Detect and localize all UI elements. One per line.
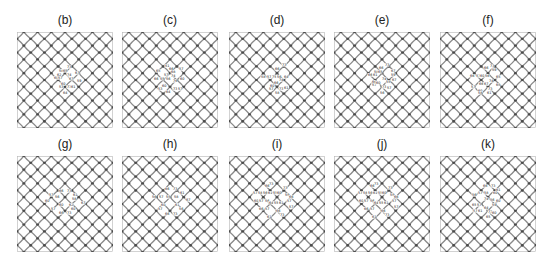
atom-label: 73 xyxy=(283,186,287,190)
atom-label: 59 xyxy=(77,79,81,83)
atom-label: 65 xyxy=(496,75,500,79)
atom-label: 65 xyxy=(472,203,476,207)
atom-label: 55 xyxy=(274,201,278,205)
atom-label: 57 xyxy=(370,207,374,211)
atom-label: 66 xyxy=(259,207,263,211)
atom-label: 57 xyxy=(158,207,162,211)
atom-label: 57 xyxy=(478,191,482,195)
atom-label: 67 xyxy=(186,198,190,202)
atom-label: 56 xyxy=(55,195,59,199)
panel-title: (k) xyxy=(440,137,536,151)
atom-label: 66 xyxy=(483,184,487,188)
atom-label: 53 xyxy=(59,85,63,89)
atom-label: 57 xyxy=(477,203,481,207)
atom-label: 57 xyxy=(58,76,62,80)
atom-label: 57 xyxy=(259,199,263,203)
atom-label: 60 xyxy=(492,211,496,215)
atom-label: 58 xyxy=(478,91,482,95)
atom-label: 57 xyxy=(471,85,475,89)
atom-label: 67 xyxy=(392,78,396,82)
atom-label: 73 xyxy=(374,182,378,186)
panel-title: (c) xyxy=(122,13,218,27)
atom-label: 58 xyxy=(258,191,262,195)
atom-label: 67 xyxy=(69,77,73,81)
atom-label: 57 xyxy=(473,209,477,213)
atom-label: 60 xyxy=(382,191,386,195)
lattice-structure: 7366596657605665746667655760736158 xyxy=(440,32,536,128)
atom-label: 58 xyxy=(484,191,488,195)
atom-label: 73 xyxy=(173,87,177,91)
panel-title: (g) xyxy=(17,137,113,151)
atom-label: 58 xyxy=(72,197,76,201)
atom-label: 65 xyxy=(496,83,500,87)
atom-label: 61 xyxy=(373,191,377,195)
atom-label: 58 xyxy=(363,191,367,195)
atom-label: 61 xyxy=(71,85,75,89)
atom-label: 55 xyxy=(386,80,390,84)
atom-label: 61 xyxy=(268,191,272,195)
atom-label: 56 xyxy=(472,193,476,197)
atom-label: 57 xyxy=(265,207,269,211)
atom-label: 56 xyxy=(152,195,156,199)
atom-label: 57 xyxy=(267,75,271,79)
atom-label: 60 xyxy=(59,203,63,207)
atom-label: 73 xyxy=(280,213,284,217)
atom-label: 61 xyxy=(279,201,283,205)
atom-label: 60 xyxy=(376,81,380,85)
atom-label: 61 xyxy=(478,209,482,213)
atom-label: 60 xyxy=(493,191,497,195)
atom-label: 65 xyxy=(486,215,490,219)
atom-label: 57 xyxy=(269,87,273,91)
panel-title: (f) xyxy=(440,13,536,27)
atom-label: 55 xyxy=(160,77,164,81)
lattice-structure: 7366735758566155605966576057566455615766… xyxy=(334,156,430,252)
atom-label: 73 xyxy=(67,189,71,193)
atom-label: 67 xyxy=(484,82,488,86)
lattice-structure: 6673615657555867606157566673 xyxy=(122,156,218,252)
atom-label: 56 xyxy=(179,207,183,211)
atom-label: 61 xyxy=(267,215,271,219)
atom-label: 58 xyxy=(174,195,178,199)
atom-label: 64 xyxy=(284,75,288,79)
lattice-structure: 6673615756586060626757606673 xyxy=(17,156,113,252)
atom-label: 60 xyxy=(71,207,75,211)
atom-label: 55 xyxy=(166,195,170,199)
panel-title: (e) xyxy=(334,13,430,27)
lattice-structure: 7366735758566155605966576057566455615766… xyxy=(229,156,325,252)
atom-label: 66 xyxy=(364,207,368,211)
atom-label: 56 xyxy=(490,198,494,202)
atom-label: 57 xyxy=(392,199,396,203)
lattice-structure: 7366585775566474666057736158 xyxy=(229,32,325,128)
atom-label: 57 xyxy=(358,191,362,195)
lattice-structure: 66736157586056745660655764595761736065 xyxy=(440,156,536,252)
atom-label: 64 xyxy=(374,201,378,205)
atom-label: 57 xyxy=(49,193,53,197)
atom-label: 73 xyxy=(491,184,495,188)
atom-label: 60 xyxy=(180,77,184,81)
atom-label: 59 xyxy=(492,203,496,207)
atom-label: 57 xyxy=(289,205,293,209)
atom-label: 61 xyxy=(180,191,184,195)
atom-label: 57 xyxy=(387,86,391,90)
lattice-structure: 5166576568577466555676606053735764 xyxy=(122,32,218,128)
atom-label: 66 xyxy=(470,74,474,78)
lattice-structure: 735865676274605767596053736164 xyxy=(17,32,113,128)
panel-title: (i) xyxy=(229,137,325,151)
atom-label: 73 xyxy=(282,63,286,67)
atom-label: 58 xyxy=(261,75,265,79)
atom-label: 66 xyxy=(165,187,169,191)
atom-label: 56 xyxy=(380,91,384,95)
atom-label: 67 xyxy=(75,71,79,75)
atom-label: 73 xyxy=(67,211,71,215)
atom-label: 73 xyxy=(382,85,386,89)
atom-label: 55 xyxy=(379,201,383,205)
atom-label: 59 xyxy=(492,68,496,72)
atom-label: 66 xyxy=(484,66,488,70)
atom-label: 60 xyxy=(277,191,281,195)
atom-label: 73 xyxy=(269,182,273,186)
atom-label: 56 xyxy=(368,191,372,195)
atom-label: 66 xyxy=(275,67,279,71)
atom-label: 76 xyxy=(173,79,177,83)
atom-label: 73 xyxy=(67,65,71,69)
atom-label: 53 xyxy=(158,87,162,91)
